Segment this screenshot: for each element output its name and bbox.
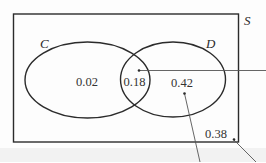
d-only-leader-line (185, 94, 201, 163)
outside-value: 0.38 (205, 127, 227, 141)
universe-label: S (244, 13, 251, 28)
d-only-dot (183, 92, 186, 95)
set-d-label: D (205, 36, 216, 51)
intersection-dot (138, 69, 141, 72)
d-only-value: 0.42 (171, 76, 193, 90)
intersection-value: 0.18 (124, 75, 146, 89)
c-only-value: 0.02 (76, 75, 98, 89)
venn-diagram: S C D 0.02 0.18 0.42 0.38 (0, 0, 266, 162)
set-c-label: C (40, 36, 49, 51)
outside-dot (233, 138, 236, 141)
outside-leader-line (234, 140, 256, 162)
